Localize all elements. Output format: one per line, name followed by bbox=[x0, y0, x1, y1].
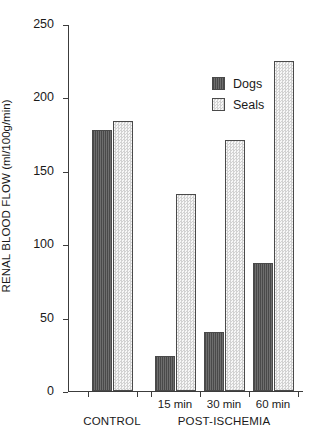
bar-seals-control bbox=[113, 121, 133, 391]
y-tick-label-50: 50 bbox=[40, 311, 54, 325]
x-tick-30-min bbox=[200, 392, 201, 397]
bar-seals-15-min bbox=[176, 194, 196, 391]
x-axis-line bbox=[68, 391, 303, 392]
y-tick-100: 100 bbox=[63, 245, 68, 246]
y-tick-label-150: 150 bbox=[33, 164, 54, 178]
x-tick-label-60-min: 60 min bbox=[256, 398, 291, 410]
chart-legend: Dogs Seals bbox=[212, 73, 264, 115]
legend-item-seals: Seals bbox=[212, 94, 264, 115]
y-tick-label-100: 100 bbox=[33, 237, 54, 251]
y-tick-0: 0 bbox=[63, 392, 68, 393]
bar-seals-60-min bbox=[274, 61, 294, 391]
y-axis-line bbox=[68, 25, 69, 392]
y-tick-250: 250 bbox=[63, 25, 68, 26]
group-label-post-ischemia: POST-ISCHEMIA bbox=[178, 415, 271, 427]
y-tick-label-250: 250 bbox=[33, 17, 54, 31]
bar-dogs-30-min bbox=[204, 332, 224, 391]
y-tick-150: 150 bbox=[63, 172, 68, 173]
y-tick-label-0: 0 bbox=[47, 384, 54, 398]
y-tick-200: 200 bbox=[63, 98, 68, 99]
x-tick-control bbox=[88, 392, 89, 397]
x-tick-60-min bbox=[249, 392, 250, 397]
y-axis-title-main: RENAL BLOOD FLOW bbox=[0, 173, 12, 292]
renal-blood-flow-bar-chart: RENAL BLOOD FLOW (ml/100g/min) 050100150… bbox=[0, 0, 319, 441]
y-tick-50: 50 bbox=[63, 319, 68, 320]
x-tick-15-min bbox=[151, 392, 152, 397]
plot-area: 050100150200250 Dogs Seals bbox=[68, 25, 303, 392]
bar-seals-30-min bbox=[225, 140, 245, 391]
legend-label-seals: Seals bbox=[233, 98, 264, 112]
bar-dogs-60-min bbox=[253, 263, 273, 391]
x-tick-label-30-min: 30 min bbox=[207, 398, 242, 410]
y-axis-title: RENAL BLOOD FLOW (ml/100g/min) bbox=[0, 0, 18, 392]
x-tick-label-15-min: 15 min bbox=[158, 398, 193, 410]
legend-swatch-seals-icon bbox=[212, 98, 225, 111]
x-tick-end-60-min bbox=[298, 392, 299, 397]
legend-item-dogs: Dogs bbox=[212, 73, 264, 94]
legend-label-dogs: Dogs bbox=[233, 77, 262, 91]
y-axis-title-unit: (ml/100g/min) bbox=[0, 100, 12, 170]
y-tick-label-200: 200 bbox=[33, 90, 54, 104]
group-label-control: CONTROL bbox=[83, 415, 141, 427]
x-tick-end-control bbox=[137, 392, 138, 397]
legend-swatch-dogs-icon bbox=[212, 77, 225, 90]
bar-dogs-15-min bbox=[155, 356, 175, 391]
bar-dogs-control bbox=[92, 130, 112, 391]
